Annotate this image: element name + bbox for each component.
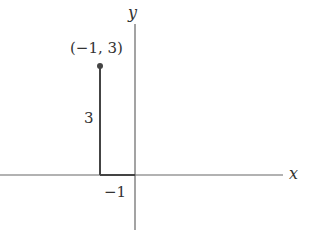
x-axis-label: x: [289, 166, 298, 182]
y-axis-label: y: [128, 5, 137, 21]
axes-graphic: [0, 0, 318, 230]
point-marker: [97, 63, 103, 69]
point-label: (−1, 3): [70, 41, 123, 56]
height-label: 3: [84, 111, 94, 126]
x-tick-label: −1: [104, 185, 126, 200]
coordinate-diagram: y x (−1, 3) 3 −1: [0, 0, 318, 230]
